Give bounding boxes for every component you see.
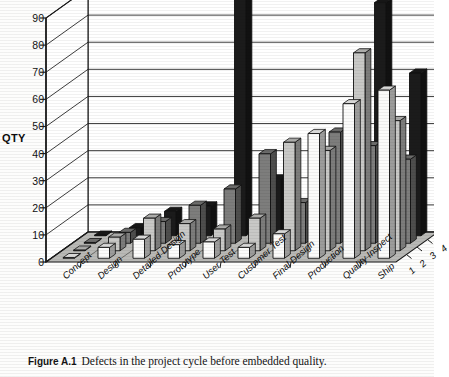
- category-label-concept: Concept: [60, 249, 94, 281]
- caption-text: Defects in the project cycle before embe…: [82, 355, 327, 367]
- caption-number: Figure A.1: [28, 356, 77, 367]
- category-axis-labels: ConceptDesignDetailed DesignPrototypeUse…: [0, 0, 434, 345]
- category-label-ship: Ship: [375, 260, 396, 281]
- chart-figure: QTY 9080706050403020100 ConceptDesignDet…: [0, 0, 434, 345]
- depth-label-2: 2: [417, 257, 428, 269]
- category-label-design: Design: [95, 253, 124, 281]
- category-label-user-test: User Test: [200, 246, 237, 281]
- depth-label-4: 4: [438, 242, 449, 254]
- depth-label-1: 1: [406, 265, 417, 277]
- figure-caption: Figure A.1Defects in the project cycle b…: [28, 355, 428, 367]
- depth-label-3: 3: [427, 250, 438, 262]
